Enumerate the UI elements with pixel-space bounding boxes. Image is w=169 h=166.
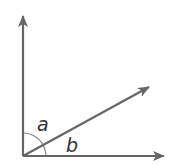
angle-b-label: b: [66, 134, 78, 156]
angle-a-label: a: [37, 113, 49, 135]
angle-diagram: a b: [0, 0, 169, 166]
angle-b-arc: [44, 146, 46, 156]
